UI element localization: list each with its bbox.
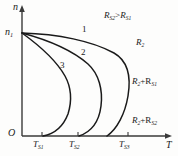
x-tick-ts2-sub: S2 xyxy=(74,144,80,150)
curve-1-R2 xyxy=(22,33,129,136)
curve-2-R2-RS1 xyxy=(22,33,101,136)
torque-speed-diagram: n T O n1 RS2>RS1 1 2 3 R2 R2+RS1 R2+RS2 … xyxy=(0,0,178,156)
curve-number-2: 2 xyxy=(81,48,86,57)
x-tick-label-ts2: TS2 xyxy=(69,140,80,149)
x-tick-ts1-sub: S1 xyxy=(38,144,44,150)
resistance-R2RS1-suffix: +R xyxy=(140,76,151,86)
x-tick-label-ts3: TS3 xyxy=(119,140,130,149)
resistance-R2RS2-base: R xyxy=(132,115,138,125)
condition-left-sub: S2 xyxy=(110,15,116,21)
resistance-label-R2-RS2: R2+RS2 xyxy=(132,116,157,125)
condition-left-base: R xyxy=(104,10,110,20)
condition-right-base: R xyxy=(120,10,126,20)
y-axis-label: n xyxy=(13,2,18,12)
x-axis-arrow xyxy=(165,133,172,139)
resistance-label-R2: R2 xyxy=(136,38,144,47)
y-value-n1-label: n1 xyxy=(5,27,13,37)
x-tick-label-ts1: TS1 xyxy=(33,140,44,149)
resistance-R2RS1-sub: 2 xyxy=(138,81,141,87)
origin-label: O xyxy=(8,128,15,138)
condition-right-sub: S1 xyxy=(126,15,132,21)
curve-number-3: 3 xyxy=(60,61,65,70)
resistance-R2RS2-suffix-sub: S2 xyxy=(151,120,157,126)
resistance-R2-sub: 2 xyxy=(142,42,145,48)
resistance-R2-base: R xyxy=(136,37,142,47)
resistance-R2RS2-suffix: +R xyxy=(140,115,151,125)
y-value-n1-sub: 1 xyxy=(10,31,13,38)
resistance-R2RS2-sub: 2 xyxy=(138,120,141,126)
resistance-R2RS1-base: R xyxy=(132,76,138,86)
y-axis-arrow xyxy=(19,5,25,12)
x-tick-ts3-sub: S3 xyxy=(124,144,130,150)
x-axis-label: T xyxy=(166,140,172,150)
resistance-R2RS1-suffix-sub: S1 xyxy=(151,81,157,87)
resistance-label-R2-RS1: R2+RS1 xyxy=(132,77,157,86)
curve-number-1: 1 xyxy=(82,25,87,34)
condition-annotation: RS2>RS1 xyxy=(104,11,131,20)
